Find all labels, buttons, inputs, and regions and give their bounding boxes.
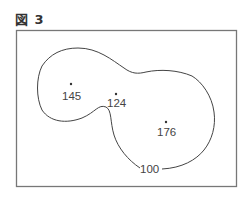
contour-map: 145 124 176 100 xyxy=(0,0,251,197)
point-124: 124 xyxy=(107,93,127,109)
point-label: 145 xyxy=(62,90,81,102)
contour-label: 100 xyxy=(140,163,159,175)
point-label: 124 xyxy=(107,97,127,109)
point-label: 176 xyxy=(157,126,176,138)
point-145: 145 xyxy=(62,83,81,102)
point-176: 176 xyxy=(157,121,176,138)
point-marker xyxy=(70,83,72,85)
point-marker xyxy=(115,93,117,95)
map-frame xyxy=(17,31,237,187)
point-marker xyxy=(165,121,167,123)
